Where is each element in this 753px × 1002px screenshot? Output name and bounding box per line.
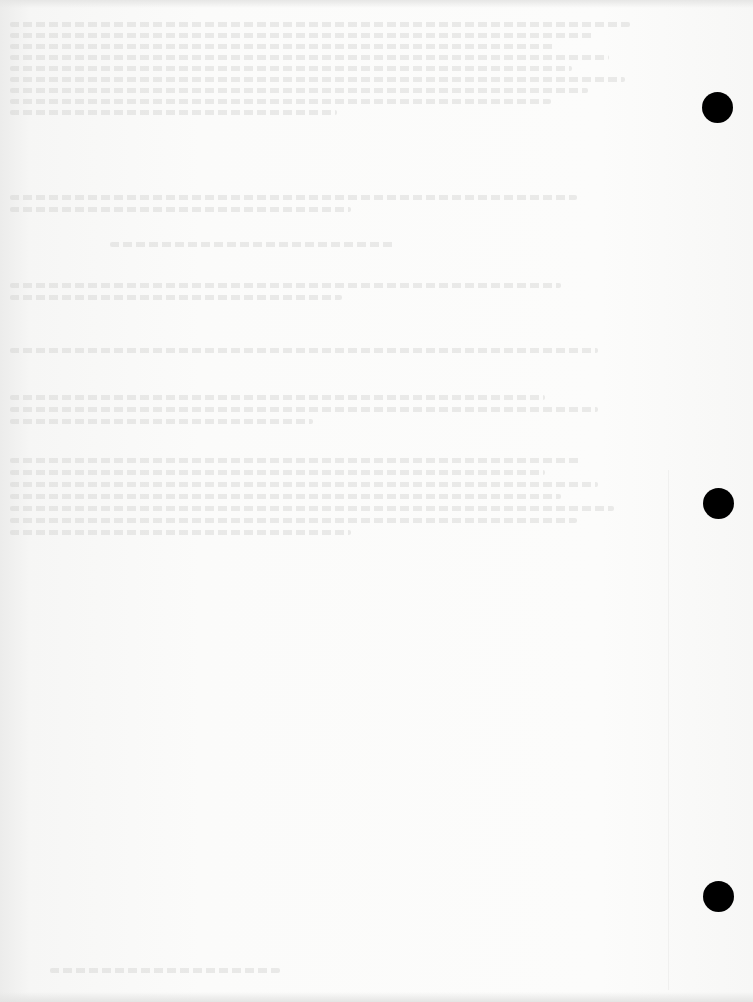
bleed-through-line (10, 77, 625, 82)
bleed-through-line (10, 88, 588, 93)
bleed-through-line (10, 195, 577, 200)
bleed-through-line (10, 66, 572, 71)
bleed-through-line (10, 458, 582, 463)
bleed-through-line (10, 518, 577, 523)
page-crease (668, 470, 669, 990)
bleed-through-line (10, 482, 598, 487)
bleed-through-line (10, 55, 609, 60)
bleed-through-line (10, 395, 545, 400)
footer-bleed-line (50, 968, 280, 973)
bleed-through-line (110, 242, 394, 247)
bleed-through-line (10, 295, 342, 300)
bleed-through-line (10, 207, 351, 212)
bleed-through-line (10, 407, 598, 412)
bleed-through-line (10, 348, 598, 353)
page-top-edge (0, 0, 753, 8)
binder-hole-icon (703, 881, 734, 912)
bleed-through-line (10, 530, 351, 535)
bleed-through-line (10, 506, 614, 511)
bleed-through-line (10, 470, 545, 475)
bleed-through-line (10, 33, 593, 38)
scanned-page (0, 0, 753, 1002)
bleed-through-line (10, 494, 561, 499)
binder-hole-icon (702, 92, 733, 123)
bleed-through-line (10, 44, 556, 49)
bleed-through-line (10, 419, 313, 424)
bleed-through-line (10, 22, 630, 27)
binder-hole-icon (703, 488, 734, 519)
bleed-through-line (10, 110, 337, 115)
bleed-through-line (10, 283, 561, 288)
page-bottom-edge (0, 992, 753, 1002)
bleed-through-line (10, 99, 551, 104)
